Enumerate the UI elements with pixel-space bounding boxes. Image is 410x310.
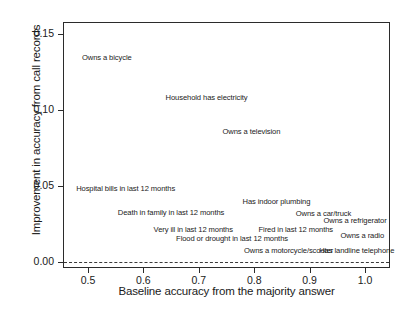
y-tick-label: 0.15	[0, 27, 54, 39]
y-tick-label: 0.05	[0, 179, 54, 191]
data-point-label: Household has electricity	[166, 94, 248, 102]
data-point-label: Has indoor plumbing	[243, 199, 311, 207]
data-point-label: Hospital bills in last 12 months	[76, 185, 175, 193]
data-point-label: Flood or drought in last 12 months	[176, 236, 288, 244]
y-tick-mark	[58, 110, 63, 111]
data-point-label: Owns a radio	[341, 233, 385, 241]
data-point-label: Owns a bicycle	[82, 54, 132, 62]
y-tick-mark	[58, 34, 63, 35]
x-tick-mark	[199, 268, 200, 273]
data-point-label: Has landline telephone	[319, 247, 394, 255]
data-point-label: Death in family in last 12 months	[118, 209, 224, 217]
x-tick-mark	[143, 268, 144, 273]
x-tick-mark	[365, 268, 366, 273]
data-point-label: Owns a refrigerator	[324, 217, 387, 225]
zero-reference-line	[64, 262, 389, 263]
x-tick-mark	[88, 268, 89, 273]
y-tick-mark	[58, 262, 63, 263]
data-point-label: Owns a television	[223, 128, 281, 136]
x-tick-mark	[310, 268, 311, 273]
data-point-label: Very ill in last 12 months	[154, 226, 233, 234]
y-tick-mark	[58, 186, 63, 187]
scatter-plot-figure: Improvement in accuracy from call record…	[0, 0, 410, 310]
data-point-label: Fired in last 12 months	[259, 226, 334, 234]
y-tick-label: 0.10	[0, 103, 54, 115]
y-tick-label: 0.00	[0, 255, 54, 267]
x-axis-title: Baseline accuracy from the majority answ…	[63, 285, 390, 297]
x-tick-mark	[254, 268, 255, 273]
